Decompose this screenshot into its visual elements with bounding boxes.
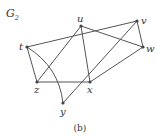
figure-caption: (b) (74, 123, 87, 133)
node-label-t: t (19, 41, 24, 52)
edge-t-z (27, 47, 37, 82)
graph-title: G2 (6, 7, 19, 22)
edge-u-w (81, 26, 143, 47)
node-t (25, 45, 28, 48)
edges (27, 21, 143, 103)
node-v (135, 19, 138, 22)
edge-u-z (37, 26, 81, 82)
edge-v-y (63, 21, 137, 103)
node-u (79, 24, 82, 27)
node-label-x: x (87, 84, 93, 95)
node-label-z: z (33, 84, 40, 95)
node-label-u: u (77, 13, 83, 24)
edge-u-x (81, 26, 90, 82)
node-w (141, 45, 144, 48)
graph-diagram: G2 tuvwzxy (b) (0, 0, 157, 137)
node-y (61, 101, 64, 104)
node-label-v: v (141, 15, 147, 26)
node-label-w: w (146, 43, 155, 54)
node-label-y: y (59, 106, 66, 117)
